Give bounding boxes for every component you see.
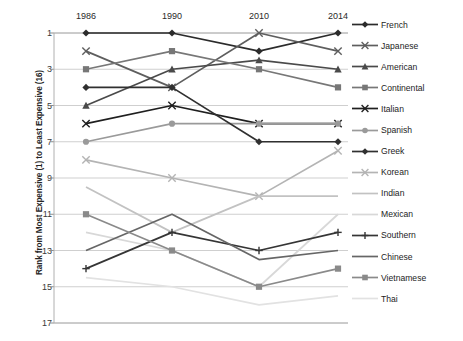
data-point-marker	[335, 266, 341, 272]
legend-item-label: Greek	[381, 146, 404, 156]
legend-item-indian[interactable]: Indian	[352, 183, 462, 204]
data-point-marker	[83, 139, 89, 145]
legend-item-continental[interactable]: Continental	[352, 77, 462, 98]
data-point-marker	[362, 127, 368, 133]
data-point-marker	[362, 85, 368, 91]
legend-item-greek[interactable]: Greek	[352, 141, 462, 162]
data-point-marker	[362, 148, 369, 155]
data-point-marker	[255, 247, 262, 254]
data-point-marker	[334, 147, 341, 154]
data-point-marker	[168, 29, 175, 36]
series-line	[86, 151, 338, 196]
legend-swatch-icon	[352, 230, 378, 241]
data-point-marker	[362, 232, 369, 239]
legend-swatch-icon	[352, 40, 378, 51]
legend-item-korean[interactable]: Korean	[352, 162, 462, 183]
legend-item-label: Korean	[381, 167, 409, 177]
data-point-marker	[82, 47, 89, 54]
legend-swatch-icon	[352, 251, 378, 262]
legend-item-label: Mexican	[381, 209, 413, 219]
data-point-marker	[255, 48, 262, 55]
data-point-marker	[362, 275, 368, 281]
legend-swatch-icon	[352, 19, 378, 30]
legend-swatch-icon	[352, 188, 378, 199]
legend-swatch-icon	[352, 146, 378, 157]
series-line	[86, 124, 338, 142]
legend-item-southern[interactable]: Southern	[352, 225, 462, 246]
data-point-marker	[82, 29, 89, 36]
chart-figure: Rank from Most Expensive (1) to Least Ex…	[0, 0, 463, 341]
legend-swatch-icon	[352, 293, 378, 304]
data-point-marker	[335, 121, 341, 127]
legend-item-label: Continental	[381, 83, 424, 93]
data-point-marker	[334, 229, 341, 236]
legend-swatch-icon	[352, 272, 378, 283]
legend-item-italian[interactable]: Italian	[352, 98, 462, 119]
legend-item-label: French	[381, 20, 408, 30]
legend-item-label: Indian	[381, 188, 404, 198]
data-point-marker	[169, 247, 175, 253]
legend-item-japanese[interactable]: Japanese	[352, 35, 462, 56]
legend-swatch-icon	[352, 61, 378, 72]
data-point-marker	[83, 66, 89, 72]
data-point-marker	[256, 66, 262, 72]
series-line	[86, 106, 338, 124]
data-point-marker	[168, 229, 175, 236]
legend-item-label: Vietnamese	[381, 273, 426, 283]
legend-swatch-icon	[352, 103, 378, 114]
legend-swatch-icon	[352, 125, 378, 136]
data-point-marker	[256, 121, 262, 127]
data-point-marker	[334, 29, 341, 36]
chart-legend: FrenchJapaneseAmericanContinentalItalian…	[352, 14, 462, 309]
series-korean	[82, 147, 341, 200]
legend-item-label: Japanese	[381, 41, 418, 51]
legend-swatch-icon	[352, 82, 378, 93]
series-thai	[86, 278, 338, 305]
legend-item-label: Southern	[381, 230, 416, 240]
legend-item-label: American	[381, 62, 417, 72]
series-line	[86, 187, 338, 232]
legend-item-vietnamese[interactable]: Vietnamese	[352, 267, 462, 288]
data-point-marker	[362, 21, 369, 28]
legend-item-label: Spanish	[381, 125, 412, 135]
data-point-marker	[256, 284, 262, 290]
data-point-marker	[169, 121, 175, 127]
legend-item-american[interactable]: American	[352, 56, 462, 77]
series-line	[86, 278, 338, 305]
legend-item-french[interactable]: French	[352, 14, 462, 35]
legend-item-chinese[interactable]: Chinese	[352, 246, 462, 267]
data-point-marker	[335, 84, 341, 90]
legend-item-mexican[interactable]: Mexican	[352, 204, 462, 225]
legend-item-label: Italian	[381, 104, 404, 114]
legend-item-spanish[interactable]: Spanish	[352, 119, 462, 140]
series-indian	[86, 187, 338, 232]
legend-swatch-icon	[352, 167, 378, 178]
legend-item-label: Thai	[381, 294, 398, 304]
legend-item-thai[interactable]: Thai	[352, 288, 462, 309]
legend-item-label: Chinese	[381, 252, 413, 262]
legend-swatch-icon	[352, 209, 378, 220]
data-point-marker	[82, 265, 89, 272]
data-point-marker	[82, 84, 89, 91]
data-point-marker	[83, 211, 89, 217]
series-american	[82, 56, 341, 108]
data-point-marker	[169, 48, 175, 54]
data-point-marker	[334, 138, 341, 145]
